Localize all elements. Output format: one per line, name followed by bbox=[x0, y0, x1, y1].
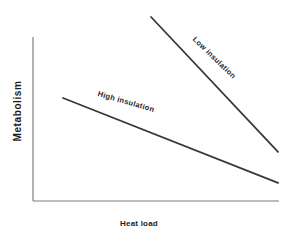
y-axis-label: Metabolism bbox=[12, 80, 23, 141]
series-lines bbox=[63, 17, 278, 183]
metabolism-heat-load-chart: Low insulation High insulation Metabolis… bbox=[0, 0, 292, 230]
x-axis-label: Heat load bbox=[120, 219, 158, 228]
series-line-low-insulation bbox=[151, 17, 278, 152]
chart-canvas: Low insulation High insulation Metabolis… bbox=[0, 0, 292, 230]
high-insulation-line-label: High insulation bbox=[97, 89, 156, 114]
series-line-high-insulation bbox=[63, 98, 278, 183]
low-insulation-line-label: Low insulation bbox=[191, 35, 238, 81]
